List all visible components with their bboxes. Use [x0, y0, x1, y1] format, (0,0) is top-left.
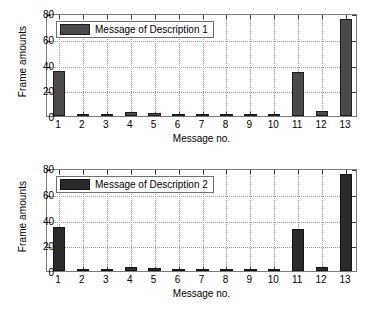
gridline-horizontal [47, 196, 356, 197]
plot-area-top: Message of Description 1 [46, 14, 357, 117]
x-axis-tick-label: 11 [285, 274, 309, 285]
gridline-vertical [274, 170, 275, 271]
y-axis-tick-label: 60 [28, 34, 54, 45]
x-axis-tick-mark [155, 15, 156, 19]
y-axis-tick-mark [352, 222, 356, 223]
bar [148, 268, 160, 271]
bar [244, 114, 256, 116]
x-axis-tick-label: 9 [237, 119, 261, 130]
y-axis-tick-label: 60 [28, 189, 54, 200]
y-axis-tick-mark [352, 15, 356, 16]
x-axis-tick-label: 10 [261, 119, 285, 130]
bar [101, 269, 113, 271]
gridline-vertical [250, 170, 251, 271]
x-axis-tick-mark [250, 15, 251, 19]
x-axis-tick-label: 2 [70, 119, 94, 130]
legend-label-bottom: Message of Description 2 [95, 179, 208, 190]
y-axis-tick-label: 80 [28, 9, 54, 20]
bar [268, 114, 280, 116]
x-axis-label-bottom: Message no. [46, 288, 357, 299]
x-axis-label-top: Message no. [46, 133, 357, 144]
x-axis-tick-label: 7 [190, 119, 214, 130]
x-axis-tick-label: 5 [142, 274, 166, 285]
bar [77, 114, 89, 116]
gridline-vertical [322, 15, 323, 116]
x-axis-tick-mark [274, 170, 275, 174]
bar [268, 269, 280, 271]
x-axis-tick-label: 4 [118, 119, 142, 130]
bar [101, 114, 113, 116]
x-axis-tick-label: 13 [333, 274, 357, 285]
y-axis-tick-label: 40 [28, 215, 54, 226]
y-axis-tick-mark [352, 41, 356, 42]
x-axis-tick-label: 2 [70, 274, 94, 285]
x-axis-tick-mark [83, 15, 84, 19]
y-axis-tick-label: 20 [28, 86, 54, 97]
legend-swatch-icon [60, 179, 90, 190]
legend-swatch-icon [60, 24, 90, 35]
x-axis-tick-label: 7 [190, 274, 214, 285]
x-axis-tick-label: 1 [46, 119, 70, 130]
bar [292, 229, 304, 271]
bar [125, 267, 137, 271]
bar [53, 227, 65, 271]
x-axis-tick-mark [107, 170, 108, 174]
bar [340, 19, 352, 116]
x-axis-tick-mark [274, 15, 275, 19]
gridline-horizontal [47, 222, 356, 223]
x-axis-tick-mark [59, 170, 60, 174]
plot-area-bottom: Message of Description 2 [46, 169, 357, 272]
x-axis-tick-mark [298, 170, 299, 174]
bar [53, 71, 65, 116]
bar [340, 174, 352, 271]
x-axis-tick-mark [322, 170, 323, 174]
bar [77, 269, 89, 271]
gridline-horizontal [47, 247, 356, 248]
x-axis-tick-label: 8 [213, 274, 237, 285]
bar [125, 112, 137, 116]
x-axis-tick-mark [322, 15, 323, 19]
y-axis-tick-mark [352, 170, 356, 171]
x-axis-tick-mark [107, 15, 108, 19]
bar [316, 267, 328, 271]
gridline-vertical [226, 170, 227, 271]
bar [292, 72, 304, 116]
figure: Frame amounts Message of Description 1 M… [0, 0, 379, 309]
bar [148, 113, 160, 116]
x-axis-tick-label: 6 [166, 274, 190, 285]
gridline-horizontal [47, 41, 356, 42]
x-axis-tick-mark [203, 15, 204, 19]
chart-panel-top: Frame amounts Message of Description 1 M… [0, 0, 379, 154]
x-axis-tick-mark [250, 170, 251, 174]
y-axis-label-bottom: Frame amounts [17, 169, 28, 265]
gridline-vertical [322, 170, 323, 271]
y-axis-tick-mark [352, 67, 356, 68]
chart-panel-bottom: Frame amounts Message of Description 2 M… [0, 155, 379, 309]
x-axis-tick-label: 13 [333, 119, 357, 130]
y-axis-tick-label: 20 [28, 241, 54, 252]
x-axis-tick-label: 12 [309, 274, 333, 285]
bar [196, 114, 208, 116]
gridline-vertical [250, 15, 251, 116]
x-axis-tick-mark [226, 170, 227, 174]
x-axis-tick-label: 9 [237, 274, 261, 285]
x-axis-tick-label: 5 [142, 119, 166, 130]
x-axis-tick-label: 1 [46, 274, 70, 285]
legend-top: Message of Description 1 [56, 21, 214, 38]
x-axis-tick-mark [59, 15, 60, 19]
gridline-vertical [274, 15, 275, 116]
x-axis-tick-mark [131, 15, 132, 19]
bar [196, 269, 208, 271]
x-axis-tick-label: 10 [261, 274, 285, 285]
x-axis-tick-mark [155, 170, 156, 174]
bar [172, 114, 184, 116]
legend-label-top: Message of Description 1 [95, 24, 208, 35]
y-axis-tick-label: 40 [28, 60, 54, 71]
x-axis-tick-mark [298, 15, 299, 19]
y-axis-tick-mark [352, 196, 356, 197]
x-axis-tick-mark [226, 15, 227, 19]
gridline-vertical [226, 15, 227, 116]
x-axis-tick-label: 11 [285, 119, 309, 130]
bar [172, 269, 184, 271]
gridline-horizontal [47, 92, 356, 93]
